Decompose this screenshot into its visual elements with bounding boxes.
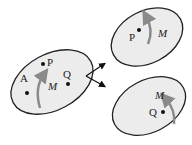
left-region: A P Q M <box>0 37 104 128</box>
bottom-point-q-label: Q <box>149 106 157 118</box>
point-q-dot <box>66 82 70 86</box>
point-a-dot <box>25 91 29 95</box>
bottom-right-region-ellipse <box>102 65 192 145</box>
diagram-canvas: A P Q M P M Q M <box>0 0 192 145</box>
bottom-manifold-m-label: M <box>154 89 165 101</box>
point-p-label: P <box>47 56 53 68</box>
top-point-p-dot <box>137 28 141 32</box>
bottom-right-region: Q M <box>102 65 192 145</box>
point-q-label: Q <box>63 68 71 80</box>
top-manifold-m-label: M <box>157 27 168 39</box>
top-right-region-ellipse <box>101 0 192 78</box>
bottom-point-q-dot <box>161 110 165 114</box>
top-point-p-label: P <box>129 31 135 43</box>
top-right-region: P M <box>101 0 192 78</box>
manifold-m-label: M <box>47 80 58 92</box>
point-a-label: A <box>20 72 28 84</box>
point-p-dot <box>41 62 45 66</box>
